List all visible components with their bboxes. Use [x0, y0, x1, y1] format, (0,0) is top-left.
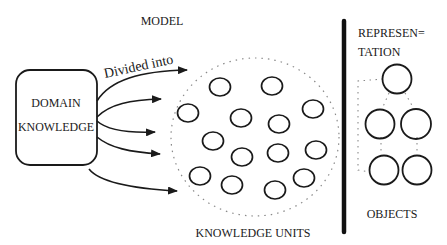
knowledge-unit [203, 132, 224, 150]
diagram-svg: MODEL DOMAIN KNOWLEDGE Divided into KNOW… [0, 0, 447, 245]
domain-label-line2: KNOWLEDGE [18, 120, 94, 134]
object-node [403, 156, 432, 185]
knowledge-unit [269, 115, 290, 133]
object-node [366, 110, 395, 139]
object-node [383, 65, 412, 94]
arrow-2 [97, 99, 161, 117]
knowledge-units-boundary [171, 58, 339, 216]
knowledge-unit [210, 78, 231, 96]
knowledge-unit [294, 169, 315, 187]
domain-label-line1: DOMAIN [31, 96, 81, 110]
divided-into-label: Divided into [103, 52, 175, 81]
knowledge-units [178, 77, 327, 199]
knowledge-unit [231, 109, 252, 127]
model-label: MODEL [141, 14, 184, 28]
object-node [401, 109, 431, 139]
knowledge-unit [222, 176, 243, 194]
division-arrows [89, 70, 187, 191]
knowledge-unit [306, 141, 327, 159]
domain-knowledge-box: DOMAIN KNOWLEDGE [16, 70, 97, 165]
arrow-4 [97, 137, 160, 154]
knowledge-unit [178, 104, 199, 122]
representation-label-line2: TATION [358, 45, 401, 59]
object-node [370, 156, 399, 185]
objects-label: OBJECTS [367, 207, 418, 221]
diagram-canvas: MODEL DOMAIN KNOWLEDGE Divided into KNOW… [0, 0, 447, 245]
arrow-5 [89, 169, 177, 191]
knowledge-unit [265, 181, 286, 199]
knowledge-unit [303, 100, 324, 118]
knowledge-unit [232, 148, 253, 166]
knowledge-unit [262, 77, 283, 95]
arrow-3 [97, 121, 155, 132]
representation-label-line1: REPRESEN= [358, 26, 425, 40]
objects [366, 65, 432, 185]
knowledge-unit [268, 144, 289, 162]
knowledge-units-label: KNOWLEDGE UNITS [196, 226, 311, 240]
knowledge-unit [190, 167, 211, 185]
